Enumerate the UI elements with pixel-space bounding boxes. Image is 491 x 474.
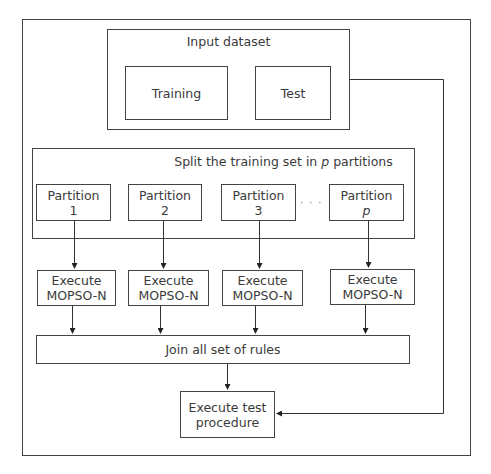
arrow-testset-to-procedure <box>277 80 444 414</box>
connector-lines <box>0 0 491 474</box>
